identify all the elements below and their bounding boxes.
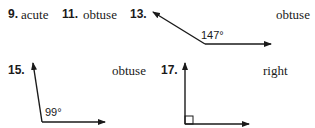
right-angle-marker <box>185 116 193 124</box>
item-13-number: 13. <box>130 7 147 21</box>
item-17-number: 17. <box>161 63 178 77</box>
item-13-angle-label: 147° <box>201 29 224 41</box>
item-13-answer: obtuse <box>276 7 310 23</box>
item-11-answer: obtuse <box>83 7 117 23</box>
item-9-answer: acute <box>21 7 48 23</box>
angle-15-figure <box>33 63 105 122</box>
item-15-answer: obtuse <box>112 63 146 79</box>
item-9-number: 9. <box>8 7 18 21</box>
item-15-number: 15. <box>8 63 25 77</box>
item-17-answer: right <box>263 63 288 79</box>
angle-17-figure <box>185 63 249 124</box>
item-15-angle-label: 99° <box>45 106 62 118</box>
item-11-number: 11. <box>62 7 78 21</box>
